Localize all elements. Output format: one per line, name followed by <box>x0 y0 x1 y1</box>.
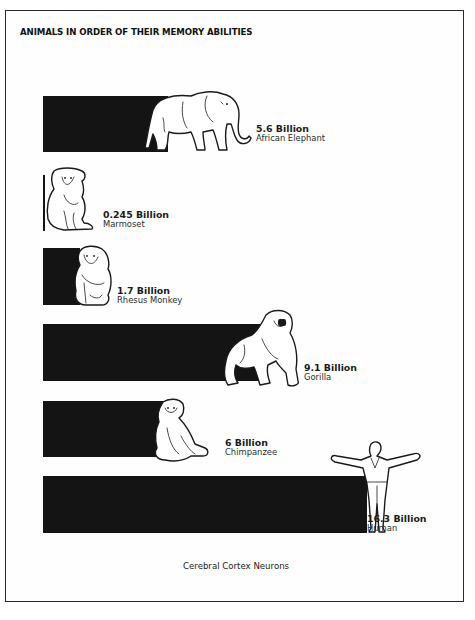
category-label: Chimpanzee <box>225 448 277 457</box>
monkey-icon <box>72 243 114 309</box>
chimpanzee-icon <box>151 398 213 464</box>
gorilla-icon <box>222 309 302 387</box>
label-marmoset: 0.245 Billion Marmoset <box>103 210 169 230</box>
category-label: African Elephant <box>256 134 325 143</box>
category-label: Rhesus Monkey <box>117 296 182 305</box>
elephant-icon <box>143 88 253 156</box>
marmoset-icon <box>44 167 96 233</box>
category-label: Marmoset <box>103 220 169 229</box>
label-human: 16.3 Billion Human <box>367 514 427 534</box>
label-chimpanzee: 6 Billion Chimpanzee <box>225 438 277 458</box>
label-gorilla: 9.1 Billion Gorilla <box>304 363 357 383</box>
chart-title: ANIMALS IN ORDER OF THEIR MEMORY ABILITI… <box>20 27 252 37</box>
bar-chimpanzee <box>43 401 168 457</box>
label-rhesus-monkey: 1.7 Billion Rhesus Monkey <box>117 286 182 306</box>
label-african-elephant: 5.6 Billion African Elephant <box>256 124 325 144</box>
bar-human <box>43 476 367 533</box>
category-label: Human <box>367 524 427 533</box>
category-label: Gorilla <box>304 373 357 382</box>
x-axis-label: Cerebral Cortex Neurons <box>183 561 289 571</box>
